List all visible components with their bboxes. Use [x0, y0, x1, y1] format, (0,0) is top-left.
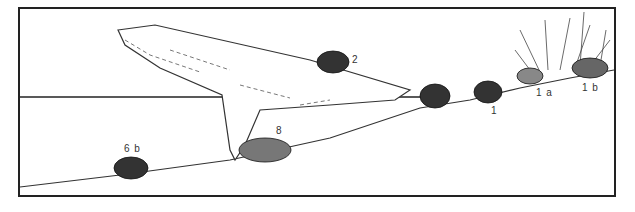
- label-1: 1: [491, 105, 498, 116]
- label-1a: 1 a: [536, 87, 553, 98]
- turtle-1a-icon: [517, 68, 543, 84]
- turtle-1b-icon: [572, 58, 608, 78]
- turtle-2-icon: [317, 51, 349, 73]
- turtle-1-icon: [474, 81, 502, 103]
- label-2: 2: [352, 54, 359, 65]
- label-1b: 1 b: [582, 82, 599, 93]
- turtle-6b-icon: [114, 157, 148, 179]
- turtle-8-icon: [239, 138, 291, 162]
- turtle-log-drawing: [0, 0, 635, 212]
- turtle-center-icon: [420, 84, 450, 108]
- label-6b: 6 b: [124, 143, 141, 154]
- label-8: 8: [276, 125, 283, 136]
